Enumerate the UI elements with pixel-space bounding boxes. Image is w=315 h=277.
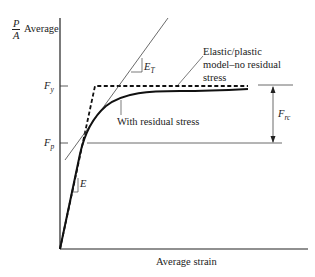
frc-sub: rc — [284, 113, 290, 122]
fy-label: Fy — [44, 80, 54, 93]
elastic-plastic-label-line1: Elastic/plastic — [203, 46, 262, 58]
x-axis-label: Average strain — [156, 256, 217, 268]
frc-arrow-down — [271, 136, 276, 143]
frc-arrow-up — [271, 86, 276, 93]
elastic-plastic-label-line3: stress — [203, 72, 226, 84]
tangent-modulus-label: ET — [144, 61, 155, 74]
fraction-numerator: P — [12, 18, 20, 30]
elastic-plastic-leader — [178, 56, 203, 85]
y-axis-label-fraction: P A — [12, 18, 20, 41]
elastic-modulus-label: E — [80, 178, 86, 190]
elastic-plastic-label-line2: model–no residual — [203, 59, 281, 71]
with-residual-stress-label: With residual stress — [117, 116, 199, 128]
tangent-line — [65, 18, 168, 160]
y-axis-label-text: Average — [24, 23, 59, 35]
fraction-denominator: A — [12, 30, 20, 41]
fp-sub: p — [50, 142, 54, 151]
elastic-plastic-model-dashed — [60, 86, 248, 249]
fp-label: Fp — [44, 137, 54, 150]
et-slope-triangle — [131, 58, 142, 72]
frc-label: Frc — [278, 108, 290, 121]
et-sub: T — [150, 66, 154, 75]
residual-stress-curve — [60, 89, 248, 249]
fy-sub: y — [50, 85, 53, 94]
